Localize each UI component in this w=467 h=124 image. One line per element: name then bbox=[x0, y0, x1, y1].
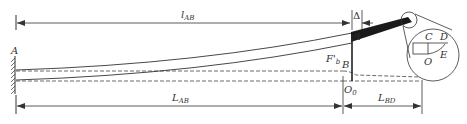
deformed-beam bbox=[16, 33, 352, 80]
undeformed-beam bbox=[16, 71, 420, 81]
label-l-ab: lAB bbox=[181, 9, 194, 22]
fixed-wall: A bbox=[10, 45, 18, 94]
cantilever-diagram: lAB Δ A bbox=[0, 0, 467, 124]
label-o: O bbox=[424, 56, 432, 67]
label-delta: Δ bbox=[353, 10, 360, 21]
label-d: D bbox=[439, 31, 448, 42]
label-e: E bbox=[439, 49, 448, 60]
label-c: C bbox=[425, 31, 433, 42]
label-L-ab: LAB bbox=[171, 92, 189, 105]
dimension-l-ab-bottom: LAB bbox=[16, 92, 342, 114]
label-force: F'b bbox=[325, 53, 341, 66]
label-a: A bbox=[10, 45, 18, 56]
label-b: B bbox=[341, 59, 349, 70]
label-L-bd: LBD bbox=[377, 92, 396, 105]
dimension-delta: Δ bbox=[352, 10, 373, 30]
label-o0: O0 bbox=[344, 84, 357, 97]
dimension-l-ab: lAB bbox=[16, 9, 350, 30]
